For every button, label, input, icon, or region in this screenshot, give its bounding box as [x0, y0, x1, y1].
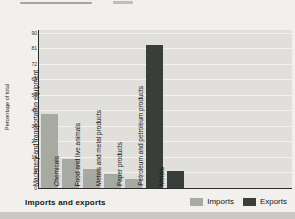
- caption-row: Imports and exports Imports Exports: [0, 195, 295, 212]
- bar-category-label: Chemicals: [53, 156, 60, 186]
- bar-category-label: Metals and metal products: [95, 110, 102, 186]
- y-tick-label: 72: [23, 62, 37, 67]
- scan-artifact: [20, 2, 92, 4]
- figure: Percentage of total 90817263544536271890…: [0, 0, 295, 219]
- gridline: [39, 64, 292, 65]
- gridline: [39, 33, 292, 34]
- y-tick-label: 81: [23, 46, 37, 51]
- legend-label: Imports: [207, 197, 234, 206]
- legend-item-exports: Exports: [243, 197, 287, 206]
- bar-category-label: Food and live animals: [74, 123, 81, 186]
- scan-artifact: [113, 1, 133, 4]
- page-edge-strip: [0, 212, 295, 219]
- legend-item-imports: Imports: [190, 197, 234, 206]
- bar-category-label: Paper products: [116, 142, 123, 186]
- plot-area: 90817263544536271890Machinery and transp…: [38, 30, 292, 189]
- bar-category-label: Machinery and transportation equipment: [32, 70, 39, 186]
- gridline: [39, 95, 292, 96]
- imports-swatch: [190, 198, 203, 206]
- bar-category-label: Petroleum and petroleum products: [137, 86, 144, 186]
- legend-label: Exports: [260, 197, 287, 206]
- legend: Imports Exports: [181, 197, 287, 206]
- gridline: [39, 79, 292, 80]
- y-tick-label: 90: [23, 31, 37, 36]
- chart-title: Imports and exports: [25, 198, 106, 207]
- y-axis-title: Percentage of total: [4, 60, 11, 154]
- exports-swatch: [243, 198, 256, 206]
- bar-exports: [167, 171, 184, 188]
- gridline: [39, 48, 292, 49]
- gridline: [39, 110, 292, 111]
- bar-category-label: Metals: [158, 167, 165, 186]
